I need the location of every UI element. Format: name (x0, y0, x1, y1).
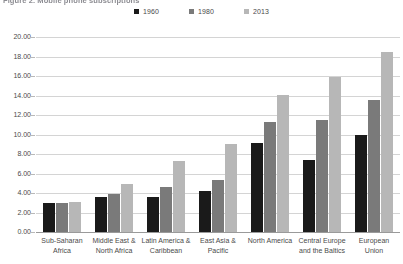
y-axis-tick-label: 6.00 (0, 170, 31, 177)
x-axis-line (36, 232, 400, 233)
legend-item-1960[interactable]: 1960 (134, 8, 159, 15)
chart-legend: 196019802013 (0, 8, 403, 15)
y-axis-tick-mark (30, 135, 35, 136)
bar-group (36, 37, 88, 232)
y-axis-tick-label: 4.00 (0, 189, 31, 196)
bar-1960[interactable] (355, 135, 367, 233)
bar-groups (36, 37, 400, 232)
bar-2013[interactable] (225, 144, 237, 232)
plot-area: 0.002.004.006.008.0010.0012.0014.0016.00… (36, 37, 400, 232)
x-axis-label-line: Caribbean (141, 246, 191, 256)
y-axis-tick-label: 18.00 (0, 53, 31, 60)
bars (296, 37, 348, 232)
bar-1980[interactable] (108, 194, 120, 232)
bar-1980[interactable] (56, 203, 68, 232)
x-axis-labels: Sub-SaharanAfricaMiddle East &North Afri… (36, 236, 400, 255)
bar-group (192, 37, 244, 232)
legend-label: 1980 (198, 8, 214, 15)
x-axis-label: European Union (348, 236, 400, 255)
legend-swatch-icon (189, 9, 194, 14)
bars (88, 37, 140, 232)
y-axis-tick-label: 20.00 (0, 33, 31, 40)
legend-item-2013[interactable]: 2013 (244, 8, 269, 15)
x-axis-label: Sub-SaharanAfrica (36, 236, 88, 255)
bar-2013[interactable] (121, 184, 133, 232)
x-axis-label-line: North America (245, 236, 295, 246)
y-axis-tick-label: 12.00 (0, 111, 31, 118)
y-axis-tick-mark (30, 174, 35, 175)
bar-group (296, 37, 348, 232)
legend-swatch-icon (244, 9, 249, 14)
legend-item-1980[interactable]: 1980 (189, 8, 214, 15)
x-axis-label-line: Africa (37, 246, 87, 256)
x-axis-label: East Asia &Pacific (192, 236, 244, 255)
x-axis-label: Central Europeand the Baltics (296, 236, 348, 255)
bar-2013[interactable] (173, 161, 185, 232)
y-axis-tick-mark (30, 37, 35, 38)
bar-1960[interactable] (303, 160, 315, 232)
bars (244, 37, 296, 232)
bar-1980[interactable] (368, 100, 380, 232)
y-axis-tick-mark (30, 232, 35, 233)
x-axis-label-line: Pacific (193, 246, 243, 256)
y-axis-tick-mark (30, 76, 35, 77)
bar-2013[interactable] (277, 95, 289, 232)
bar-1980[interactable] (160, 187, 172, 232)
bar-group (244, 37, 296, 232)
bars (192, 37, 244, 232)
bar-group (140, 37, 192, 232)
bar-group (348, 37, 400, 232)
x-axis-label-line: European Union (349, 236, 399, 255)
bar-1980[interactable] (212, 180, 224, 232)
y-axis-tick-label: 10.00 (0, 131, 31, 138)
y-axis-tick-mark (30, 193, 35, 194)
y-axis-tick-mark (30, 57, 35, 58)
legend-swatch-icon (134, 9, 139, 14)
x-axis-label: North America (244, 236, 296, 255)
y-axis-tick-label: 0.00 (0, 228, 31, 235)
x-axis-label-line: and the Baltics (297, 246, 347, 256)
x-axis-label: Latin America &Caribbean (140, 236, 192, 255)
legend-label: 2013 (253, 8, 269, 15)
y-axis-tick-label: 16.00 (0, 72, 31, 79)
y-axis-tick-mark (30, 213, 35, 214)
x-axis-label-line: Middle East & (89, 236, 139, 246)
bar-1960[interactable] (199, 191, 211, 232)
x-axis-label-line: Latin America & (141, 236, 191, 246)
bars (36, 37, 88, 232)
x-axis-label-line: East Asia & (193, 236, 243, 246)
bar-1980[interactable] (264, 122, 276, 232)
bars (348, 37, 400, 232)
y-axis-tick-label: 2.00 (0, 209, 31, 216)
y-axis-tick-mark (30, 96, 35, 97)
bar-group (88, 37, 140, 232)
bar-1960[interactable] (43, 203, 55, 232)
bar-2013[interactable] (69, 202, 81, 232)
bars (140, 37, 192, 232)
bar-2013[interactable] (329, 77, 341, 232)
bar-1960[interactable] (147, 197, 159, 232)
x-axis-label-line: Sub-Saharan (37, 236, 87, 246)
y-axis-tick-label: 8.00 (0, 150, 31, 157)
bar-chart: Figure 2. Mobile phone subscriptions 196… (0, 0, 403, 264)
y-axis-tick-mark (30, 154, 35, 155)
bar-1960[interactable] (251, 143, 263, 232)
legend-label: 1960 (143, 8, 159, 15)
y-axis-tick-mark (30, 115, 35, 116)
y-axis-tick-label: 14.00 (0, 92, 31, 99)
x-axis-label: Middle East &North Africa (88, 236, 140, 255)
bar-2013[interactable] (381, 52, 393, 232)
x-axis-label-line: Central Europe (297, 236, 347, 246)
bar-1980[interactable] (316, 120, 328, 232)
chart-title: Figure 2. Mobile phone subscriptions (3, 0, 140, 5)
x-axis-label-line: North Africa (89, 246, 139, 256)
bar-1960[interactable] (95, 197, 107, 232)
